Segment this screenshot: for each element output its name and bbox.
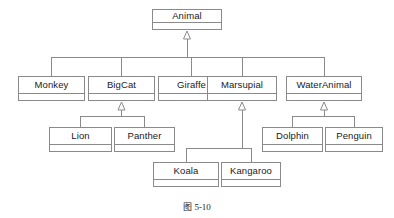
class-name-label: Animal	[153, 10, 221, 23]
class-box-kangaroo[interactable]: Kangaroo	[221, 162, 281, 187]
class-name-label: Dolphin	[263, 128, 322, 145]
class-box-marsupial[interactable]: Marsupial	[207, 76, 277, 101]
class-attributes-compartment	[326, 145, 382, 151]
inheritance-arrowhead-wateranimal	[321, 102, 328, 110]
uml-class-diagram: AnimalMonkeyBigCatGiraffeMarsupialWaterA…	[0, 0, 394, 218]
class-attributes-compartment	[115, 145, 174, 151]
class-attributes-compartment	[50, 145, 111, 151]
class-attributes-compartment	[287, 94, 361, 100]
class-box-dolphin[interactable]: Dolphin	[262, 127, 323, 152]
class-attributes-compartment	[19, 94, 84, 100]
class-box-wateranimal[interactable]: WaterAnimal	[286, 76, 362, 101]
class-name-label: Monkey	[19, 77, 84, 94]
class-name-label: Marsupial	[208, 77, 276, 94]
class-name-label: Lion	[50, 128, 111, 145]
class-attributes-compartment	[222, 180, 280, 186]
inheritance-arrowhead-animal	[184, 31, 191, 39]
class-box-penguin[interactable]: Penguin	[325, 127, 383, 152]
inheritance-arrowhead-bigcat	[118, 102, 125, 110]
class-name-label: Panther	[115, 128, 174, 145]
class-attributes-compartment	[208, 94, 276, 100]
class-box-bigcat[interactable]: BigCat	[88, 76, 155, 101]
inheritance-arrowhead-marsupial	[239, 102, 246, 110]
class-name-label: WaterAnimal	[287, 77, 361, 94]
class-box-lion[interactable]: Lion	[49, 127, 112, 152]
class-box-panther[interactable]: Panther	[114, 127, 175, 152]
class-name-label: BigCat	[89, 77, 154, 94]
class-attributes-compartment	[263, 145, 322, 151]
class-attributes-compartment	[89, 94, 154, 100]
class-name-label: Kangaroo	[222, 163, 280, 180]
class-box-animal[interactable]: Animal	[152, 9, 222, 30]
figure-caption: 图 5-10	[0, 200, 394, 213]
class-box-monkey[interactable]: Monkey	[18, 76, 85, 101]
class-attributes-compartment	[154, 180, 218, 186]
class-name-label: Penguin	[326, 128, 382, 145]
class-box-koala[interactable]: Koala	[153, 162, 219, 187]
class-attributes-compartment	[153, 23, 221, 29]
class-name-label: Koala	[154, 163, 218, 180]
